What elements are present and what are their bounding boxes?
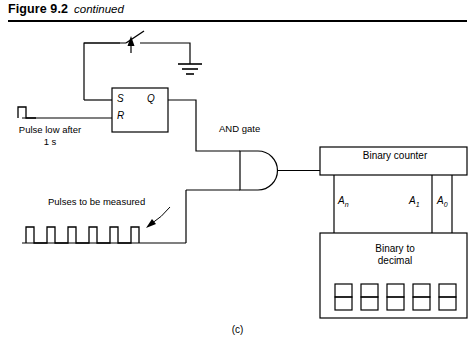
bus-label-a1: A1 xyxy=(409,195,420,208)
pulse-low-label: Pulse low after 1 s xyxy=(6,124,94,148)
circuit-diagram xyxy=(0,0,475,346)
binary-to-decimal-line2: decimal xyxy=(378,255,412,266)
digit-1-bottom xyxy=(335,297,352,310)
wire-s-to-switch xyxy=(84,43,120,100)
bus-an-base: A xyxy=(338,195,345,206)
bus-a0-base: A xyxy=(437,195,444,206)
digit-4-top xyxy=(413,284,430,297)
binary-to-decimal-line1: Binary to xyxy=(375,243,414,254)
digit-2-top xyxy=(361,284,378,297)
figure-page: Figure 9.2 continued xyxy=(0,0,475,346)
waveform-pulse-low xyxy=(18,107,36,118)
bus-a1-base: A xyxy=(409,195,416,206)
flipflop-output-q-label: Q xyxy=(147,93,155,104)
bus-a1-sub: 1 xyxy=(416,201,420,208)
switch-blade xyxy=(126,31,144,43)
bus-label-a0: A0 xyxy=(437,195,448,208)
pulses-measured-label: Pulses to be measured xyxy=(48,196,145,207)
figure-caption: (c) xyxy=(0,324,475,335)
pointer-arrowhead xyxy=(146,219,156,228)
pulse-low-line2: 1 s xyxy=(44,136,57,147)
flipflop-input-s-label: S xyxy=(117,93,124,104)
and-gate-label: AND gate xyxy=(219,123,260,134)
bus-a0-sub: 0 xyxy=(444,201,448,208)
digit-2-bottom xyxy=(361,297,378,310)
digit-4-bottom xyxy=(413,297,430,310)
flipflop-input-r-label: R xyxy=(117,110,124,121)
wire-switch-to-ground xyxy=(140,43,190,64)
bus-label-an: An xyxy=(338,195,349,208)
binary-to-decimal-label: Binary to decimal xyxy=(327,243,463,267)
and-gate-body xyxy=(240,151,277,190)
bus-an-sub: n xyxy=(345,201,349,208)
waveform-pulse-train xyxy=(26,227,139,243)
binary-counter-label: Binary counter xyxy=(327,150,463,161)
digit-3-top xyxy=(387,284,404,297)
pulse-low-line1: Pulse low after xyxy=(19,124,81,135)
digit-5-top xyxy=(439,284,456,297)
digit-3-bottom xyxy=(387,297,404,310)
digit-1-top xyxy=(335,284,352,297)
digit-5-bottom xyxy=(439,297,456,310)
